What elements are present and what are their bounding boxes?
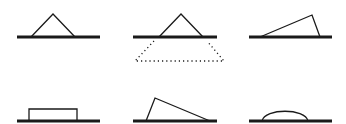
rectangle-shape [29, 109, 77, 121]
diagram-canvas [0, 0, 346, 124]
triangle-shape [159, 14, 203, 37]
panel-isosceles-triangle [17, 14, 100, 37]
triangle-shape [260, 15, 320, 37]
dotted-trapezoid-shape [135, 41, 224, 61]
triangle-shape [31, 14, 75, 37]
panel-dome [249, 111, 332, 121]
panel-left-leaning-triangle [133, 98, 217, 121]
panel-triangle-with-dotted-trapezoid [133, 14, 224, 61]
panel-right-leaning-triangle [249, 15, 332, 37]
panel-flat-rectangle [17, 109, 100, 121]
triangle-shape [146, 98, 210, 121]
